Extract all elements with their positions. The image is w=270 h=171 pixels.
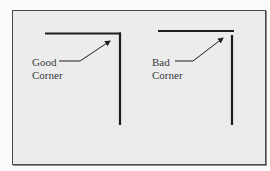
good-label-line2: Corner xyxy=(32,69,63,82)
good-label-line1: Good xyxy=(32,56,63,69)
bad-label-line1: Bad xyxy=(152,56,183,69)
good-corner-label: Good Corner xyxy=(32,56,63,82)
good-arrow-icon xyxy=(59,41,110,61)
bad-corner-label: Bad Corner xyxy=(152,56,183,82)
corner-diagram xyxy=(0,0,270,171)
bad-label-line2: Corner xyxy=(152,69,183,82)
